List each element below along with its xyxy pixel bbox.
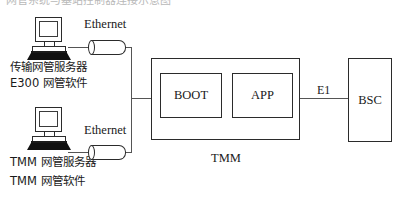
ethernet-label-top: Ethernet xyxy=(84,17,126,32)
e1-link-label: E1 xyxy=(317,83,330,97)
keyboard-base xyxy=(27,143,71,150)
transceiver-cap-bottom xyxy=(88,145,95,160)
transceiver-body-top xyxy=(91,40,126,55)
monitor-screen xyxy=(39,111,58,127)
computer-icon-top-server xyxy=(26,17,72,61)
keyboard-base xyxy=(27,53,71,60)
computer-icon-bottom-server xyxy=(26,107,72,151)
ethernet-bus-line xyxy=(131,47,132,153)
wire-bus-to-tmm xyxy=(131,98,152,99)
tmm-caption: TMM xyxy=(191,150,261,166)
ethernet-label-bottom: Ethernet xyxy=(84,123,126,138)
cut-off-header-text: 网管系统与基站控制器连接示意图 xyxy=(6,0,191,7)
diagram-canvas: 网管系统与基站控制器连接示意图 传输网管服务器 E300 网管软件 Ethern… xyxy=(0,0,401,203)
wire-bottom-server-to-transceiver xyxy=(68,152,88,153)
top-server-label-line2: E300 网管软件 xyxy=(10,77,87,91)
transceiver-body-bottom xyxy=(91,145,126,160)
tmm-module-boot-label: BOOT xyxy=(160,73,222,118)
ethernet-transceiver-icon-bottom xyxy=(88,145,126,160)
bsc-label: BSC xyxy=(348,58,392,142)
wire-top-server-to-transceiver xyxy=(68,47,88,48)
ethernet-transceiver-icon-top xyxy=(88,40,126,55)
cut-off-header-text-label: 网管系统与基站控制器连接示意图 xyxy=(6,0,171,7)
bottom-server-label-line1: TMM 网管服务器 xyxy=(10,156,96,170)
bottom-server-label-line2: TMM 网管软件 xyxy=(10,175,85,189)
top-server-label-line1: 传输网管服务器 xyxy=(10,61,87,75)
transceiver-cap-top xyxy=(88,40,95,55)
tmm-module-app-label: APP xyxy=(232,73,293,118)
monitor-screen xyxy=(39,21,58,37)
wire-e1-tmm-to-bsc xyxy=(300,98,348,99)
